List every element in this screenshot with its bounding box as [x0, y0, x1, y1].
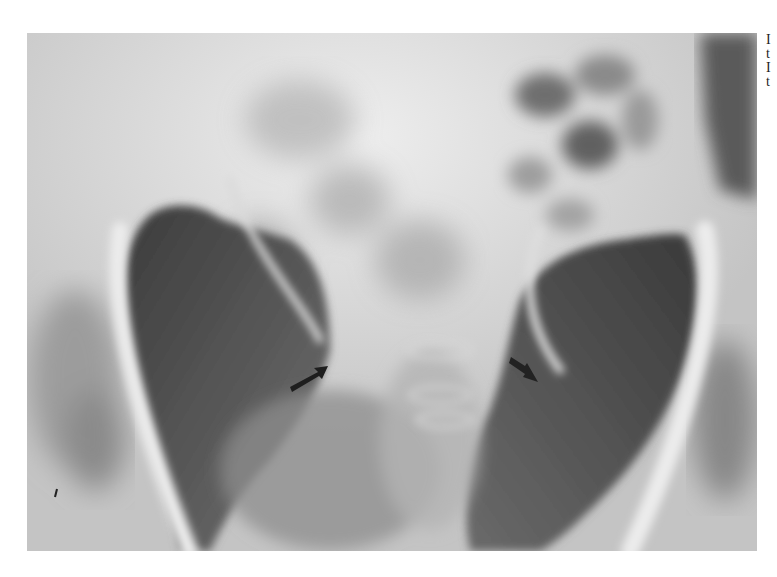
- radiograph-svg: [27, 33, 757, 551]
- pelvic-radiograph: [27, 33, 757, 551]
- caption-line: t: [766, 75, 777, 89]
- page: I t I t: [0, 0, 777, 577]
- caption-line: I: [766, 61, 777, 75]
- caption-line: I: [766, 33, 777, 47]
- caption-line: t: [766, 47, 777, 61]
- truncated-caption: I t I t: [766, 33, 777, 89]
